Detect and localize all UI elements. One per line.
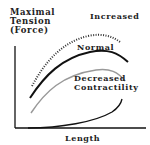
label-normal: Normal	[77, 43, 114, 52]
label-contractility: Contractility	[74, 83, 138, 92]
label-increased: Increased	[90, 12, 140, 21]
curve-passive	[28, 99, 122, 128]
x-axis-label: Length	[65, 134, 100, 143]
